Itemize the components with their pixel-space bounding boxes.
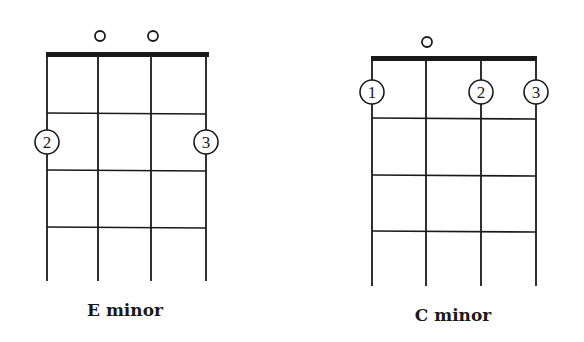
nut-bar [371,56,537,61]
fret-line-2 [372,175,536,176]
finger-marker: 2 [35,130,59,154]
fret-line-1 [372,118,536,119]
open-string-icon [148,31,158,41]
chord-name-label: E minor [87,300,163,320]
fret-line-2 [47,170,206,171]
open-string-icon [95,31,105,41]
fret-line-3 [47,227,206,228]
finger-marker: 1 [360,80,384,104]
chord-name-label: C minor [415,305,492,325]
finger-number: 3 [202,133,211,152]
finger-number: 3 [532,83,541,102]
fret-line-3 [372,231,536,232]
finger-number: 2 [43,133,52,152]
finger-number: 2 [477,83,486,102]
fret-line-1 [47,113,206,114]
chord-diagram-e-minor: 23 [35,31,218,281]
chord-diagrams-canvas: 23123 [0,0,584,342]
finger-marker: 3 [524,80,548,104]
open-string-icon [422,37,432,47]
chord-diagram-c-minor: 123 [360,37,548,286]
finger-marker: 2 [469,80,493,104]
finger-marker: 3 [194,130,218,154]
finger-number: 1 [368,83,377,102]
nut-bar [46,52,209,57]
